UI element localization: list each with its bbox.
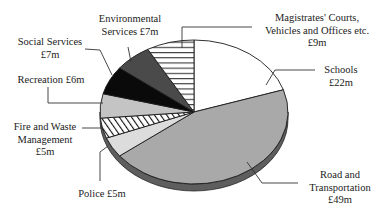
- leader-recreation: [48, 87, 103, 103]
- label-environmental: Environmental Services £7m: [90, 13, 170, 38]
- label-fire: Fire and Waste Management £5m: [8, 121, 82, 159]
- label-schools: Schools £22m: [316, 64, 366, 89]
- pie-slices: [100, 40, 288, 184]
- label-magistrates: Magistrates' Courts, Vehicles and Office…: [252, 12, 382, 50]
- label-road: Road and Transportation £49m: [300, 169, 380, 207]
- label-police: Police £5m: [72, 188, 132, 201]
- label-recreation: Recreation £6m: [12, 74, 90, 87]
- label-social: Social Services £7m: [10, 36, 90, 61]
- leader-police: [100, 146, 108, 181]
